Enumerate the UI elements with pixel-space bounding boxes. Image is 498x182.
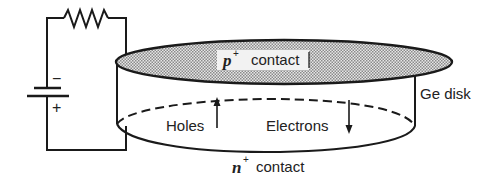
p-contact-text: contact <box>251 51 300 68</box>
p-contact-sup: + <box>233 48 239 59</box>
battery-minus-label: − <box>52 70 61 87</box>
resistor <box>64 10 108 27</box>
electrons-label: Electrons <box>266 117 329 134</box>
electrons-arrow <box>346 100 353 134</box>
p-contact-var: p <box>221 51 232 70</box>
holes-label: Holes <box>166 117 204 134</box>
battery <box>27 88 69 96</box>
n-contact-sup: + <box>243 154 249 165</box>
ge-disk-label: Ge disk <box>420 85 471 102</box>
battery-plus-label: + <box>52 99 61 116</box>
wire-top-right <box>108 18 126 54</box>
ge-disk-diagram: − + p + contact Holes Electrons Ge disk … <box>0 0 498 182</box>
n-contact-var: n <box>232 158 241 177</box>
n-contact-text: contact <box>256 158 305 175</box>
